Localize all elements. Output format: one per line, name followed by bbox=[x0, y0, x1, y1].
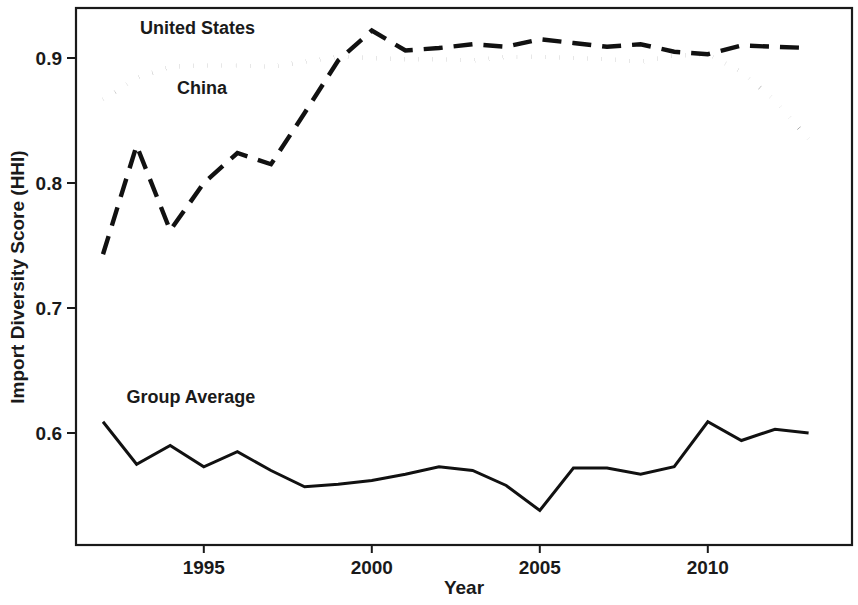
series-label-united-states: United States bbox=[140, 18, 255, 38]
x-tick-label: 2010 bbox=[687, 557, 729, 578]
y-axis-title: Import Diversity Score (HHI) bbox=[7, 150, 28, 403]
series-annotations: United StatesChinaGroup Average bbox=[127, 18, 256, 407]
series-line-group-average bbox=[103, 422, 809, 511]
y-axis-ticks bbox=[67, 58, 76, 433]
x-axis-title: Year bbox=[444, 577, 485, 598]
series-label-group-average: Group Average bbox=[127, 387, 256, 407]
chart-figure: 1995200020052010 0.60.70.80.9 United Sta… bbox=[0, 0, 858, 605]
series-label-china: China bbox=[177, 78, 228, 98]
y-tick-label: 0.7 bbox=[36, 298, 62, 319]
y-tick-label: 0.6 bbox=[36, 423, 62, 444]
y-tick-label: 0.8 bbox=[36, 173, 62, 194]
y-axis-tick-labels: 0.60.70.80.9 bbox=[36, 48, 62, 444]
y-tick-label: 0.9 bbox=[36, 48, 62, 69]
x-tick-label: 2005 bbox=[519, 557, 562, 578]
x-tick-label: 2000 bbox=[351, 557, 393, 578]
x-axis-ticks bbox=[204, 545, 708, 553]
line-chart: 1995200020052010 0.60.70.80.9 United Sta… bbox=[0, 0, 858, 605]
data-series-group bbox=[103, 31, 809, 511]
x-axis-tick-labels: 1995200020052010 bbox=[183, 557, 729, 578]
series-line-china bbox=[103, 31, 809, 255]
x-tick-label: 1995 bbox=[183, 557, 226, 578]
